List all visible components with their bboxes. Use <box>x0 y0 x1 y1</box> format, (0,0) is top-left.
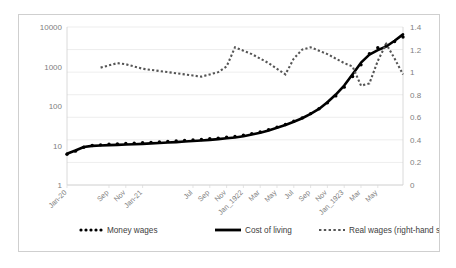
x-axis-tick-label: Jan-20 <box>47 188 69 210</box>
x-axis-tick-labels: Jan-20SepNovJan-21JulSepNovJan_1922MarMa… <box>47 185 380 217</box>
x-axis-tick-label: Mar <box>246 188 262 204</box>
gridlines <box>67 27 403 185</box>
data-series-group <box>65 34 404 156</box>
legend-label: Money wages <box>107 226 158 235</box>
x-axis-tick-label: May <box>363 188 379 204</box>
legend-marker-dotted <box>79 228 82 231</box>
legend-marker-dotted <box>89 228 92 231</box>
legend-item[interactable]: Money wages <box>79 226 157 235</box>
x-axis-tick-label: Mar <box>347 188 363 204</box>
legend-label: Real wages (right-hand scale) <box>349 226 439 235</box>
legend-marker-dotted <box>94 228 97 231</box>
axis-lines <box>67 27 403 185</box>
chart-legend: Money wagesCost of livingReal wages (rig… <box>79 226 439 235</box>
right-axis-tick-0.2: 0.2 <box>410 158 422 167</box>
x-axis-tick-label: Sep <box>196 188 211 203</box>
x-axis-tick-label: Sep <box>297 188 312 203</box>
chart-container: 110100100010000 00.20.40.60.811.21.4 Jan… <box>18 14 440 252</box>
legend-item[interactable]: Real wages (right-hand scale) <box>319 226 439 235</box>
left-axis-tick-100: 100 <box>49 102 63 111</box>
series-line-real-wages <box>101 44 403 86</box>
x-axis-tick-label: Jul <box>182 188 195 201</box>
right-axis-tick-1: 1 <box>410 68 415 77</box>
legend-marker-dotted <box>99 228 102 231</box>
right-axis-tick-1.4: 1.4 <box>410 23 422 32</box>
right-axis-tick-0.4: 0.4 <box>410 136 422 145</box>
left-axis-tick-labels: 110100100010000 <box>40 23 63 190</box>
right-axis-tick-1.2: 1.2 <box>410 46 422 55</box>
legend-item[interactable]: Cost of living <box>215 226 292 235</box>
right-axis-tick-0: 0 <box>410 181 415 190</box>
x-axis-tick-label: Sep <box>95 188 110 203</box>
legend-marker-dotted <box>84 228 87 231</box>
right-axis-tick-labels: 00.20.40.60.811.21.4 <box>410 23 422 190</box>
legend-label: Cost of living <box>245 226 292 235</box>
left-axis-tick-10000: 10000 <box>40 23 63 32</box>
left-axis-tick-10: 10 <box>53 142 62 151</box>
x-axis-tick-label: Jul <box>282 188 295 201</box>
chart-plot-area: 110100100010000 00.20.40.60.811.21.4 Jan… <box>19 15 439 251</box>
x-axis-tick-label: Jan-21 <box>122 188 144 210</box>
x-axis-tick-label: May <box>262 188 278 204</box>
right-axis-tick-0.8: 0.8 <box>410 91 422 100</box>
left-axis-tick-1000: 1000 <box>44 63 62 72</box>
right-axis-tick-0.6: 0.6 <box>410 113 422 122</box>
